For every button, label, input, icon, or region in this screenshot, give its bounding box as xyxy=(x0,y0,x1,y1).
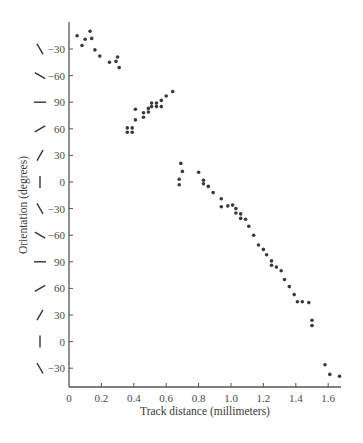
data-point xyxy=(202,178,206,182)
x-tick-label: 0.4 xyxy=(127,392,141,404)
data-point xyxy=(296,300,300,304)
y-tick-label: 60 xyxy=(54,282,66,294)
data-point xyxy=(177,183,181,187)
data-point xyxy=(220,197,224,201)
orientation-glyph-icon xyxy=(37,203,43,213)
data-point xyxy=(275,265,279,269)
data-point xyxy=(292,293,296,297)
data-point xyxy=(93,48,97,52)
y-tick-label: −30 xyxy=(48,203,66,215)
data-point xyxy=(283,278,287,282)
data-point xyxy=(207,185,211,189)
data-point xyxy=(239,217,243,221)
data-point xyxy=(323,363,327,367)
data-point xyxy=(310,324,314,328)
data-point xyxy=(328,373,332,377)
y-tick-label: 60 xyxy=(54,123,66,135)
data-point xyxy=(88,30,92,34)
data-point xyxy=(270,264,274,268)
data-point xyxy=(226,204,230,208)
data-point xyxy=(338,374,342,378)
orientation-glyph-icon xyxy=(37,150,43,160)
data-point xyxy=(116,55,120,59)
data-point xyxy=(147,107,151,111)
data-point xyxy=(279,269,283,273)
orientation-glyph-icon xyxy=(37,44,43,54)
y-tick-label: 0 xyxy=(60,176,66,188)
data-point xyxy=(160,99,164,103)
data-point xyxy=(211,191,215,195)
x-tick-label: 1.2 xyxy=(257,392,271,404)
data-point xyxy=(197,170,201,174)
data-point xyxy=(244,217,248,221)
data-point xyxy=(150,105,154,109)
data-point xyxy=(265,253,269,257)
data-point xyxy=(160,105,164,109)
data-point xyxy=(257,243,261,247)
data-point xyxy=(288,285,292,289)
data-point xyxy=(90,37,94,41)
y-tick-label: −60 xyxy=(48,229,66,241)
data-point xyxy=(155,101,159,105)
orientation-glyph-icon xyxy=(37,363,43,373)
data-point xyxy=(126,131,130,135)
y-tick-label: −30 xyxy=(48,43,66,55)
x-axis-ticks: 00.20.40.60.81.01.21.41.6 xyxy=(66,383,335,404)
x-tick-label: 0.8 xyxy=(192,392,206,404)
y-tick-label: −60 xyxy=(48,70,66,82)
y-tick-label: 30 xyxy=(54,309,66,321)
x-tick-label: 0.6 xyxy=(159,392,173,404)
data-point xyxy=(126,126,130,130)
data-point xyxy=(142,116,146,120)
data-point xyxy=(171,90,175,94)
data-point xyxy=(155,105,159,109)
axes xyxy=(69,22,341,387)
data-point xyxy=(117,66,121,70)
data-point xyxy=(179,162,183,166)
x-axis-title: Track distance (millimeters) xyxy=(140,405,270,418)
data-point xyxy=(177,178,181,182)
data-point xyxy=(307,301,311,305)
data-point xyxy=(234,211,238,215)
x-tick-label: 0.2 xyxy=(95,392,109,404)
data-point xyxy=(301,300,305,304)
y-tick-label: 30 xyxy=(54,149,66,161)
data-point xyxy=(80,44,84,48)
data-point xyxy=(234,207,238,211)
data-point xyxy=(270,259,274,263)
data-point xyxy=(147,110,151,114)
y-tick-label: 90 xyxy=(54,96,66,108)
data-point xyxy=(75,34,79,38)
orientation-glyph-icon xyxy=(35,126,45,132)
data-point xyxy=(108,61,112,65)
y-axis-title: Orientation (degrees) xyxy=(17,156,30,254)
data-point xyxy=(134,118,138,122)
data-point xyxy=(247,225,251,229)
data-point xyxy=(239,212,243,216)
orientation-glyph-icon xyxy=(35,232,45,238)
x-tick-label: 1.4 xyxy=(289,392,303,404)
orientation-glyph-icon xyxy=(35,73,45,79)
y-tick-label: 90 xyxy=(54,256,66,268)
data-point xyxy=(262,248,266,252)
orientation-glyph-icon xyxy=(35,285,45,291)
data-point xyxy=(220,205,224,209)
data-point xyxy=(98,54,102,58)
x-tick-label: 0 xyxy=(66,392,72,404)
data-point xyxy=(231,203,235,207)
data-point xyxy=(310,319,314,323)
x-tick-label: 1.0 xyxy=(224,392,238,404)
scatter-chart: −30−609060300−30−609060300−30 00.20.40.6… xyxy=(0,0,363,443)
x-tick-label: 1.6 xyxy=(321,392,335,404)
data-point xyxy=(142,111,146,115)
data-point xyxy=(164,94,168,98)
data-point xyxy=(130,131,134,135)
data-point xyxy=(252,233,256,237)
orientation-glyph-icon xyxy=(37,310,43,320)
data-point xyxy=(202,182,206,186)
y-tick-label: −30 xyxy=(48,362,66,374)
data-point xyxy=(150,101,154,105)
y-axis-ticks: −30−609060300−30−609060300−30 xyxy=(34,43,73,374)
data-point xyxy=(83,37,87,41)
data-point xyxy=(134,108,138,112)
